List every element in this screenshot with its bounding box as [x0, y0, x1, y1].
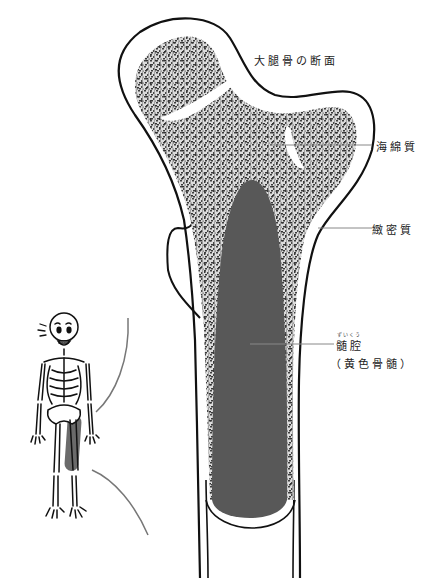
skeleton-figure-icon — [31, 313, 99, 518]
label-spongy-bone: 海綿質 — [376, 138, 418, 154]
diagram-title: 大腿骨の断面 — [254, 52, 338, 68]
label-compact-bone: 緻密質 — [372, 221, 414, 237]
femur-cross-section-diagram — [0, 0, 434, 584]
label-marrow-cavity: 髄腔 — [336, 337, 364, 353]
label-yellow-marrow: （黄色骨髄） — [330, 355, 414, 371]
zoom-arc-bottom — [92, 470, 148, 535]
zoom-arc-top — [96, 318, 128, 412]
label-marrow-cavity-reading: ずいくう — [337, 330, 361, 337]
